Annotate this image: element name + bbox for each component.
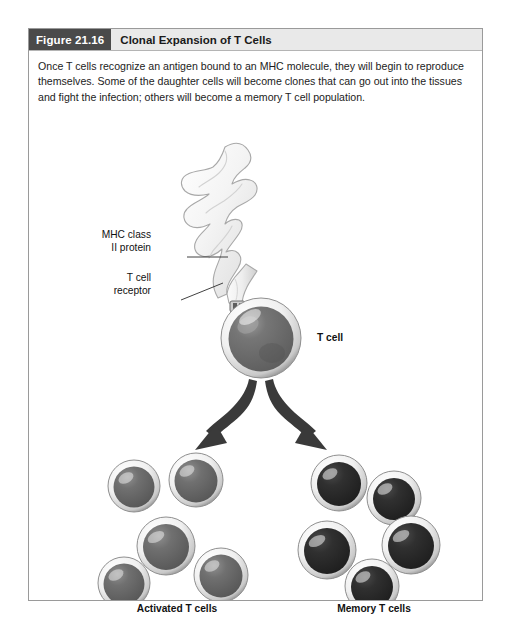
illustration: MHC class II protein T cell receptor T c… (29, 51, 482, 600)
division-arrow (195, 379, 327, 450)
label-mhc-line1: MHC class (102, 229, 151, 240)
t-cell-primary (221, 298, 301, 378)
memory-t-cells (298, 455, 440, 600)
activated-cell (169, 453, 223, 507)
activated-cell (108, 460, 160, 512)
memory-cell (382, 516, 440, 574)
label-mhc-line2: II protein (111, 242, 151, 253)
label-t-cell-receptor: T cell receptor (75, 272, 151, 297)
label-activated-t-cells: Activated T cells (97, 603, 257, 616)
activated-cell (137, 517, 195, 575)
label-mhc-class-ii: MHC class II protein (65, 229, 151, 254)
label-memory-t-cells: Memory T cells (294, 603, 454, 616)
activated-cell (194, 548, 248, 600)
label-receptor-line1: T cell (127, 272, 151, 283)
figure-header: Figure 21.16 Clonal Expansion of T Cells (29, 29, 482, 51)
memory-cell (298, 521, 356, 579)
figure-container: Figure 21.16 Clonal Expansion of T Cells… (28, 28, 483, 601)
label-t-cell: T cell (317, 332, 343, 345)
figure-title: Clonal Expansion of T Cells (111, 29, 271, 50)
memory-cell (311, 455, 367, 511)
activated-t-cells (98, 453, 248, 600)
antigen-presenting-cell (181, 143, 257, 305)
figure-number: Figure 21.16 (29, 29, 111, 50)
activated-cell (98, 557, 150, 600)
label-receptor-line2: receptor (114, 285, 151, 296)
